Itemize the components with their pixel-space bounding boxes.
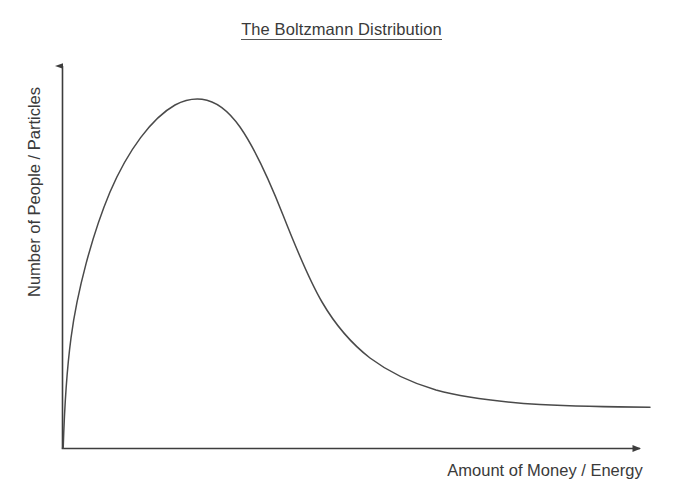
boltzmann-curve [63,99,650,448]
plot-area [0,0,683,499]
chart-figure: The Boltzmann Distribution Number of Peo… [0,0,683,499]
